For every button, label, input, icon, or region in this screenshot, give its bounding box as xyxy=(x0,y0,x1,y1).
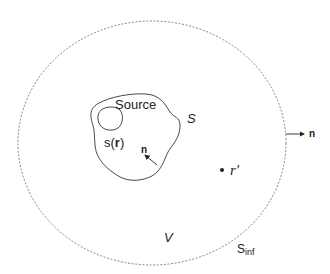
field-point-label: r' xyxy=(230,162,240,178)
outer-surface-sinf xyxy=(18,21,286,265)
diagram-canvas: Source s(r) S n n r' V Sinf xyxy=(0,0,330,274)
source-label: Source xyxy=(115,97,156,112)
volume-label: V xyxy=(164,230,174,245)
surface-s-label: S xyxy=(187,111,196,126)
source-density-label: s(r) xyxy=(104,135,124,150)
diagram-svg: Source s(r) S n n r' V Sinf xyxy=(0,0,330,274)
inner-normal-label: n xyxy=(141,144,147,155)
outer-normal-label: n xyxy=(309,128,315,139)
outer-surface-main: S xyxy=(237,242,245,256)
field-point-dot xyxy=(220,168,224,172)
outer-surface-sub: inf xyxy=(245,247,255,257)
inner-normal-arrow xyxy=(145,155,157,165)
source-density-prefix: s( xyxy=(104,135,116,150)
source-density-suffix: ) xyxy=(120,135,124,150)
outer-surface-label: Sinf xyxy=(237,242,255,257)
